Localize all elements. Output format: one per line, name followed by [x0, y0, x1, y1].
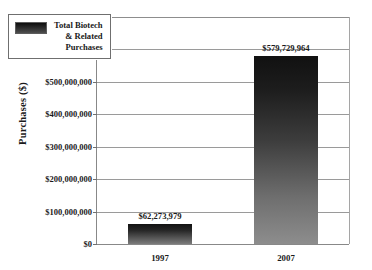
bar-chart: Purchases ($) $0$100,000,000$200,000,000… — [0, 0, 372, 270]
y-tick-label: $400,000,000 — [45, 109, 92, 119]
legend-label: Total Biotech & Related Purchases — [54, 20, 103, 53]
y-tick-mark — [93, 244, 97, 245]
y-tick-mark — [93, 179, 97, 180]
chart-legend: Total Biotech & Related Purchases — [8, 14, 111, 59]
y-axis-title: Purchases ($) — [17, 44, 28, 184]
y-tick-label: $0 — [84, 239, 93, 249]
y-tick-label: $300,000,000 — [45, 142, 92, 152]
y-tick-mark — [93, 212, 97, 213]
gridline — [97, 17, 349, 18]
x-tick-label-2007: 2007 — [277, 253, 295, 263]
bar-2007: $579,729,964 — [254, 56, 318, 244]
bar-value-label: $62,273,979 — [139, 211, 182, 221]
y-tick-label: $500,000,000 — [45, 77, 92, 87]
bar-value-label: $579,729,964 — [262, 43, 309, 53]
y-tick-mark — [93, 147, 97, 148]
legend-swatch-icon — [15, 22, 47, 34]
plot-right-border — [349, 17, 350, 244]
y-tick-label: $200,000,000 — [45, 174, 92, 184]
scan-artifact-text — [0, 0, 372, 5]
y-tick-mark — [93, 114, 97, 115]
bar-1997: $62,273,979 — [128, 224, 192, 244]
gridline — [97, 49, 349, 50]
x-tick-label-1997: 1997 — [151, 253, 169, 263]
y-tick-mark — [93, 82, 97, 83]
plot-area: $0$100,000,000$200,000,000$300,000,000$4… — [96, 17, 349, 245]
y-tick-label: $100,000,000 — [45, 207, 92, 217]
